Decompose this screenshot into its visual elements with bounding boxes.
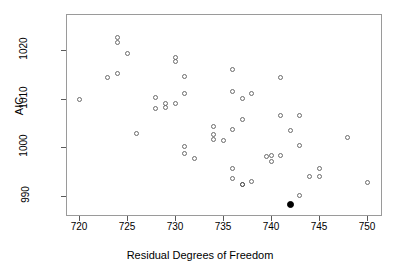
data-point	[182, 151, 187, 156]
y-axis-tick-label: 1020	[0, 43, 34, 54]
y-axis-tick	[61, 147, 66, 148]
data-point	[240, 96, 245, 101]
data-point	[307, 174, 312, 179]
x-axis-tick-label: 735	[203, 221, 243, 232]
data-point-highlighted	[287, 201, 294, 208]
data-point	[278, 75, 283, 80]
data-point	[297, 143, 302, 148]
data-point	[211, 137, 216, 142]
data-point	[240, 117, 245, 122]
data-point	[249, 179, 254, 184]
data-point	[125, 51, 130, 56]
data-point	[317, 174, 322, 179]
data-point	[230, 89, 235, 94]
data-point	[77, 97, 82, 102]
data-point	[230, 67, 235, 72]
data-point	[115, 71, 120, 76]
x-axis-tick-label: 750	[347, 221, 387, 232]
data-point	[278, 153, 283, 158]
data-point	[182, 74, 187, 79]
data-point	[264, 154, 269, 159]
data-point	[182, 91, 187, 96]
data-point	[297, 113, 302, 118]
data-point	[230, 166, 235, 171]
x-axis-tick-label: 720	[59, 221, 99, 232]
data-point	[230, 127, 235, 132]
data-point	[230, 176, 235, 181]
x-axis-tick-label: 730	[155, 221, 195, 232]
data-point	[288, 128, 293, 133]
data-point	[249, 91, 254, 96]
chart-root: 720725730735740745750990100010101020 Res…	[0, 0, 400, 277]
y-axis-tick	[61, 50, 66, 51]
y-axis-title: AIC	[13, 56, 25, 156]
data-point	[365, 180, 370, 185]
data-point	[173, 59, 178, 64]
y-axis-tick-label: 990	[0, 189, 34, 200]
y-axis-tick	[61, 99, 66, 100]
data-point	[163, 105, 168, 110]
data-point	[153, 95, 158, 100]
x-axis-tick-label: 740	[251, 221, 291, 232]
data-point	[240, 182, 245, 187]
data-point	[115, 40, 120, 45]
x-axis-title: Residual Degrees of Freedom	[0, 249, 400, 261]
x-axis-tick-label: 745	[299, 221, 339, 232]
data-point	[297, 193, 302, 198]
data-point	[278, 113, 283, 118]
data-point	[269, 159, 274, 164]
data-point	[269, 153, 274, 158]
data-point	[115, 35, 120, 40]
data-point	[221, 138, 226, 143]
data-point	[173, 101, 178, 106]
data-point	[192, 156, 197, 161]
scatter-points-layer	[0, 0, 400, 277]
data-point	[345, 135, 350, 140]
data-point	[317, 166, 322, 171]
data-point	[134, 131, 139, 136]
y-axis-tick	[61, 196, 66, 197]
data-point	[182, 144, 187, 149]
data-point	[211, 124, 216, 129]
x-axis-tick-label: 725	[107, 221, 147, 232]
data-point	[153, 106, 158, 111]
data-point	[105, 75, 110, 80]
